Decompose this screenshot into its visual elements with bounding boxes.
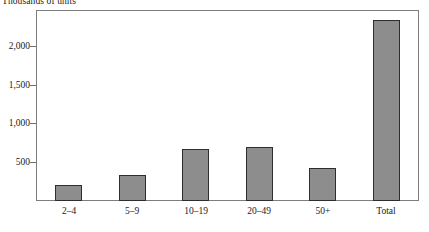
y-axis-tick-label: 1,000 xyxy=(0,118,30,128)
bar xyxy=(309,168,336,201)
x-axis-tick-label: 5–9 xyxy=(125,206,139,216)
bar xyxy=(119,175,146,201)
y-axis-tick-label: 500 xyxy=(0,157,30,167)
bar xyxy=(182,149,209,201)
x-axis-tick-label: 10–19 xyxy=(184,206,208,216)
x-axis-tick-label: Total xyxy=(376,206,395,216)
bar xyxy=(373,20,400,201)
bar xyxy=(55,185,82,201)
bar xyxy=(246,147,273,201)
y-axis: 5001,0001,5002,000 xyxy=(0,0,30,232)
y-axis-tick-label: 1,500 xyxy=(0,80,30,90)
plot-area xyxy=(37,11,418,201)
x-axis-tick-label: 20–49 xyxy=(247,206,271,216)
x-axis-tick-label: 50+ xyxy=(316,206,331,216)
x-axis: 2–45–910–1920–4950+Total xyxy=(37,206,418,226)
bar-chart-figure: Thousands of units 5001,0001,5002,000 2–… xyxy=(0,0,429,232)
y-axis-tick-label: 2,000 xyxy=(0,41,30,51)
x-axis-tick-label: 2–4 xyxy=(62,206,76,216)
